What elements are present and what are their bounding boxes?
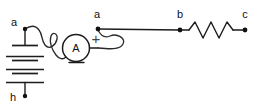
battery-group bbox=[6, 29, 44, 96]
ammeter-positive-lead-group: + bbox=[90, 30, 124, 49]
node-label-c: c bbox=[242, 8, 248, 20]
node-dot-c bbox=[243, 28, 248, 33]
wire-loop-to-node-a-right bbox=[98, 30, 124, 49]
node-dot-a-right bbox=[96, 27, 101, 32]
resistor-zigzag bbox=[189, 22, 233, 38]
circuit-diagram-canvas: A + a h a b c bbox=[0, 0, 258, 109]
node-dot-h bbox=[23, 94, 27, 98]
circuit-svg: A + a h a b c bbox=[0, 0, 258, 109]
node-label-h: h bbox=[10, 91, 16, 103]
wire-node-a-to-node-b bbox=[98, 29, 180, 30]
node-dot-b bbox=[178, 28, 183, 33]
node-label-a-left: a bbox=[11, 16, 18, 28]
node-label-a-right: a bbox=[94, 8, 101, 20]
wire-battery-to-ammeter bbox=[25, 26, 66, 58]
ammeter-label: A bbox=[72, 42, 80, 54]
resistor-group bbox=[180, 22, 245, 38]
node-dot-a-left bbox=[23, 27, 27, 31]
node-label-b: b bbox=[177, 8, 183, 20]
ammeter-group: A bbox=[63, 35, 90, 63]
